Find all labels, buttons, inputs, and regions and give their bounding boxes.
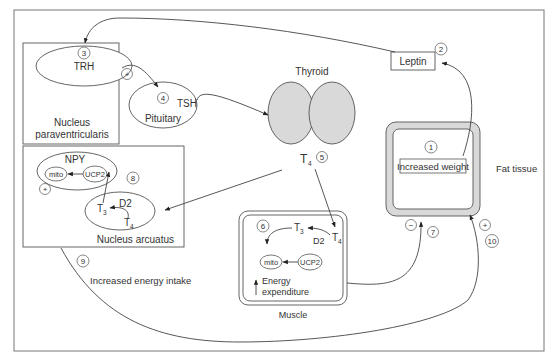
- svg-text:T: T: [300, 152, 308, 166]
- t4-to-arcuatus-arrow: [165, 170, 282, 210]
- nucleus-paraventricularis-label-1: Nucleus: [54, 117, 90, 128]
- leptin-label: Leptin: [399, 56, 426, 67]
- step-3-label: 3: [82, 49, 87, 58]
- leptin-node: Leptin 2: [391, 43, 447, 70]
- step-4-label: 4: [161, 94, 166, 103]
- muscle-fat-minus-sign: −: [409, 221, 414, 230]
- nucleus-paraventricularis-box: 3 TRH Nucleus paraventricularis: [23, 43, 132, 144]
- muscle-node: 6 T 3 T 4 D2 mito UCP2 Energy expenditur…: [239, 211, 347, 320]
- thyroid-leptin-energy-diagram: 3 TRH Nucleus paraventricularis + 4 TSH …: [0, 0, 556, 362]
- step-9-label: 9: [81, 257, 86, 266]
- nucleus-arcuatus-label: Nucleus arcuatus: [97, 234, 174, 245]
- leptin-to-trh-arrow: [85, 18, 395, 52]
- step-10-label: 10: [488, 237, 497, 246]
- nucleus-paraventricularis-label-2: paraventricularis: [35, 129, 108, 140]
- increased-energy-intake-label: Increased energy intake: [90, 275, 191, 286]
- pituitary-node: 4 TSH Pituitary: [129, 82, 197, 128]
- step-2-label: 2: [439, 45, 444, 54]
- muscle-label: Muscle: [279, 310, 308, 320]
- svg-text:D2: D2: [313, 236, 325, 246]
- svg-text:mito: mito: [264, 258, 278, 267]
- t4-output: T 4 5: [300, 152, 328, 168]
- step-8-label: 8: [131, 174, 136, 183]
- svg-text:4: 4: [308, 160, 312, 167]
- svg-text:expenditure: expenditure: [262, 287, 309, 297]
- svg-text:Energy: Energy: [262, 276, 291, 286]
- step-7-label: 7: [431, 228, 436, 237]
- step-1-label: 1: [429, 143, 434, 152]
- svg-text:mito: mito: [49, 170, 63, 179]
- thyroid-label: Thyroid: [295, 66, 328, 77]
- svg-text:4: 4: [130, 223, 134, 230]
- nucleus-arcuatus-box: NPY mito UCP2 + 8 T 3 D2 T 4 Nucleus arc…: [23, 146, 184, 247]
- increased-weight-label: Increased weight: [397, 161, 469, 172]
- tsh-to-thyroid-arrow: [197, 94, 268, 115]
- svg-text:NPY: NPY: [65, 154, 86, 165]
- tsh-label: TSH: [177, 98, 197, 109]
- svg-text:+: +: [43, 185, 48, 194]
- svg-text:UCP2: UCP2: [300, 258, 320, 267]
- svg-text:D2: D2: [119, 198, 132, 209]
- fat-tissue-node: 1 Increased weight Fat tissue: [386, 122, 537, 216]
- svg-text:UCP2: UCP2: [85, 170, 105, 179]
- trh-pituitary-plus-sign: +: [125, 70, 130, 79]
- svg-text:3: 3: [300, 228, 304, 235]
- pituitary-label: Pituitary: [145, 113, 181, 124]
- svg-text:3: 3: [103, 209, 107, 216]
- thyroid-node: Thyroid: [268, 66, 355, 144]
- trh-label: TRH: [74, 61, 95, 72]
- svg-text:4: 4: [338, 238, 342, 245]
- step-6-label: 6: [261, 222, 266, 231]
- fat-tissue-label: Fat tissue: [496, 163, 537, 174]
- intake-fat-plus-sign: +: [483, 221, 488, 230]
- step-5-label: 5: [320, 153, 325, 162]
- muscle-to-fat-arrow: [347, 222, 421, 284]
